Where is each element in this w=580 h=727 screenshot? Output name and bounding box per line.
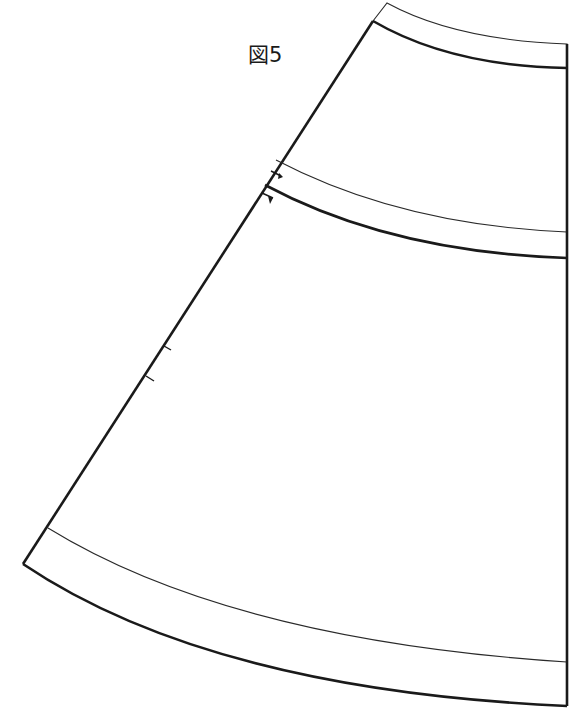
yoke-notch-lower-icon [262, 193, 273, 204]
waist-line [373, 21, 567, 68]
yoke-line [265, 185, 567, 258]
yoke-seam-allowance-line [276, 160, 567, 232]
hem-fold-line [48, 528, 567, 662]
side-seam-line [23, 21, 373, 564]
skirt-pattern-diagram [0, 0, 580, 727]
side-notch-upper-icon [164, 346, 171, 350]
hem-outer-line [23, 564, 567, 706]
side-notch-lower-icon [146, 376, 154, 381]
